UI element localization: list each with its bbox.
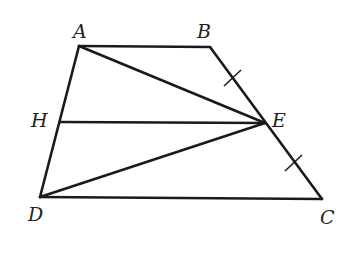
label-A: A (71, 20, 87, 42)
label-B: B (196, 20, 211, 42)
segment-DE (40, 123, 265, 197)
segment-AB (79, 46, 210, 47)
geometry-diagram: A B H E D C (0, 0, 354, 274)
segment-CD (40, 197, 322, 199)
label-C: C (320, 206, 335, 228)
label-E: E (271, 109, 286, 131)
label-D: D (27, 203, 43, 225)
segment-HE (60, 122, 265, 123)
label-H: H (30, 109, 48, 131)
